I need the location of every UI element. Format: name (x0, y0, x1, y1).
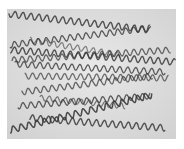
micrograph-image (0, 0, 184, 149)
